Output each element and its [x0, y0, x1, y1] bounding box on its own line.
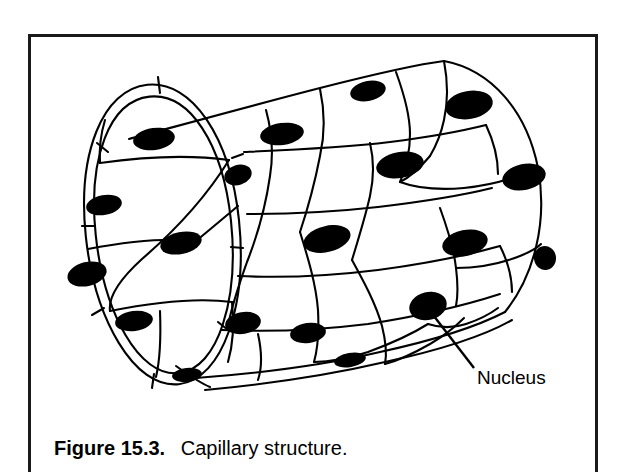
figure-caption-text: Capillary structure. — [181, 437, 348, 459]
rim-wall-tick-right — [231, 247, 243, 248]
figure-caption-label: Figure 15.3. — [54, 437, 165, 459]
figure-panel: Nucleus Figure 15.3. Capillary structure… — [0, 0, 630, 472]
figure-caption: Figure 15.3. Capillary structure. — [54, 437, 347, 459]
capillary-figure-illustration: Nucleus Figure 15.3. Capillary structure… — [0, 0, 630, 472]
nucleus-callout-label: Nucleus — [477, 367, 546, 388]
